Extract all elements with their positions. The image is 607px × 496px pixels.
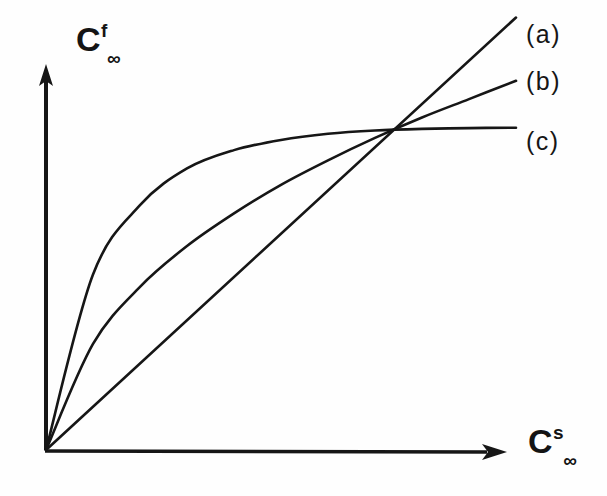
curve-label-b: (b)	[526, 69, 561, 94]
x-axis-label-superscript: s	[553, 422, 564, 443]
x-axis-line	[45, 451, 487, 452]
y-axis-label: Cf∞	[76, 22, 122, 62]
curve-a-path	[46, 18, 516, 450]
x-axis-label-subscript: ∞	[563, 450, 577, 471]
x-axis-label: Cs∞	[528, 424, 578, 464]
curve-b-path	[46, 81, 516, 450]
y-axis-label-subscript: ∞	[107, 48, 121, 69]
x-axis-label-base: C	[528, 422, 553, 460]
curve-label-a: (a)	[526, 22, 561, 47]
axes-group	[39, 64, 507, 460]
figure-container: Cf∞ Cs∞ (a) (b) (c)	[0, 0, 607, 496]
y-axis-label-base: C	[76, 20, 101, 58]
plot-canvas	[0, 0, 607, 496]
curves-group	[46, 18, 516, 450]
curve-label-c: (c)	[526, 129, 560, 154]
y-axis-label-superscript: f	[101, 20, 108, 41]
curve-c-path	[46, 128, 516, 450]
